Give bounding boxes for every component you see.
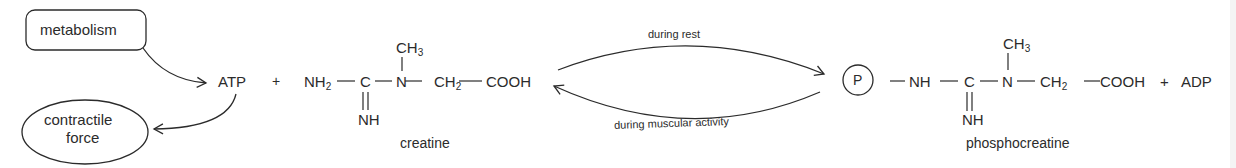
force-label: force <box>66 130 99 145</box>
creatine-label: creatine <box>400 136 450 150</box>
atp-label: ATP <box>218 74 246 89</box>
creatine-nh: NH <box>358 112 380 127</box>
during-rest-label: during rest <box>648 29 700 40</box>
reverse-arrow-during-muscular-activity <box>554 86 820 119</box>
forward-arrow-during-rest <box>558 46 824 74</box>
metabolism-to-atp-arrow <box>143 48 206 83</box>
creatine-phosphate-diagram: metabolism contractile force ATP + NH2 C… <box>0 0 1236 168</box>
creatine-ch2: CH2 <box>434 74 461 92</box>
plus-sign: + <box>272 74 280 88</box>
creatine-ch3: CH3 <box>396 40 423 58</box>
phosphocreatine-n: N <box>1002 74 1013 89</box>
page-edge <box>1230 0 1236 168</box>
creatine-nh2: NH2 <box>304 74 331 92</box>
creatine-n: N <box>396 74 407 89</box>
atp-to-force-arrow <box>154 94 236 129</box>
metabolism-label: metabolism <box>40 22 117 37</box>
plus-sign-products: + <box>1160 74 1169 89</box>
phosphocreatine-nh-bond: NH <box>909 74 931 89</box>
phosphocreatine-c: C <box>964 74 975 89</box>
contractile-label: contractile <box>44 112 112 127</box>
creatine-cooh: COOH <box>486 74 531 89</box>
phosphocreatine-ch3: CH3 <box>1003 36 1030 54</box>
adp-label: ADP <box>1181 74 1212 89</box>
phosphocreatine-label: phosphocreatine <box>966 136 1070 150</box>
phosphocreatine-ch2: CH2 <box>1040 74 1067 92</box>
creatine-c: C <box>360 74 371 89</box>
phosphate-p: P <box>853 73 862 87</box>
phosphocreatine-cooh: COOH <box>1100 74 1145 89</box>
phosphocreatine-nh: NH <box>962 112 984 127</box>
